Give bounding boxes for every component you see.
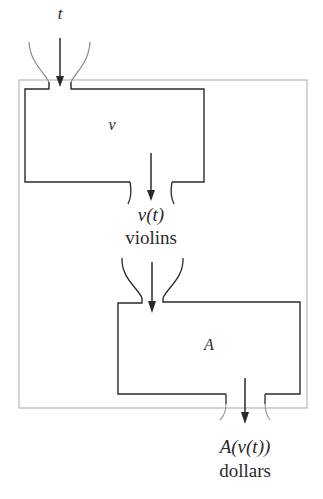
machine-v-output-unit: violins [111, 227, 191, 249]
arrowhead-icon [147, 190, 155, 201]
arrowhead-icon [241, 412, 249, 424]
machine-A-output-unit: dollars [205, 460, 285, 482]
machine-v-label: v [104, 116, 120, 134]
arrowhead-icon [148, 301, 156, 313]
composition-diagram [0, 0, 323, 499]
arrowhead-icon [56, 76, 64, 87]
machine-A-output-expr: A(v(t)) [205, 436, 285, 458]
input-label-t: t [52, 4, 68, 24]
machine-A-label: A [199, 336, 219, 354]
machine-v-output-expr: v(t) [121, 204, 181, 226]
